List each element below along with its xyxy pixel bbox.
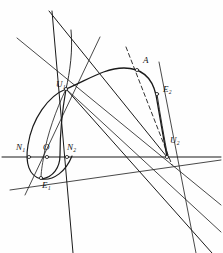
node-O — [45, 155, 48, 158]
node-A — [135, 68, 138, 71]
label-O: O — [43, 143, 50, 152]
label-U2: U₂ — [170, 136, 180, 145]
figure-canvas — [0, 0, 223, 253]
label-E1: E₁ — [42, 181, 51, 190]
label-U1: U₁ — [56, 80, 66, 89]
node-N1 — [27, 155, 30, 158]
node-E2 — [155, 92, 158, 95]
label-E2: E₂ — [163, 85, 172, 94]
label-N1: N₁ — [16, 143, 25, 152]
label-N2: N₂ — [67, 143, 76, 152]
node-U2 — [165, 155, 168, 158]
node-N2 — [65, 155, 68, 158]
geometric-figure: U₁ U₂ E₁ E₂ N₁ N₂ O A — [0, 0, 223, 253]
label-A: A — [143, 56, 149, 65]
